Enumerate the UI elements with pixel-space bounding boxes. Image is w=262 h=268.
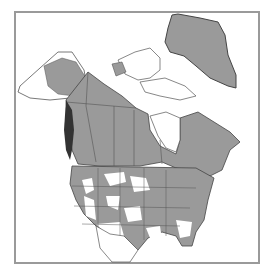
greenland — [165, 14, 236, 88]
range-map — [0, 0, 262, 268]
arctic-islands — [118, 48, 160, 80]
